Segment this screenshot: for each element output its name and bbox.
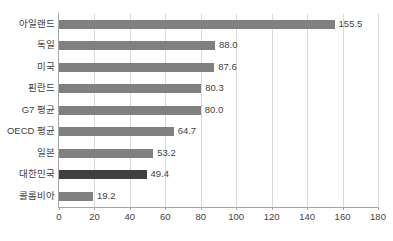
x-tick-mark xyxy=(130,207,131,210)
x-tick-label: 100 xyxy=(228,210,244,224)
category-label: 콜롬비아 xyxy=(0,190,55,202)
x-axis-labels: 020406080100120140160180 xyxy=(59,210,378,230)
bar xyxy=(59,84,201,93)
x-tick-label: 140 xyxy=(299,210,315,224)
bar-row: 80.3 xyxy=(59,78,378,99)
bar-value-label: 49.4 xyxy=(151,168,170,180)
x-tick-label: 20 xyxy=(89,210,100,224)
bar-value-label: 155.5 xyxy=(339,18,363,30)
x-tick-mark xyxy=(343,207,344,210)
x-tick-mark xyxy=(272,207,273,210)
bar-value-label: 80.0 xyxy=(205,104,224,116)
category-label: OECD 평균 xyxy=(0,125,55,137)
bar-row: 155.5 xyxy=(59,14,378,35)
bar-row: 53.2 xyxy=(59,143,378,164)
x-tick-mark xyxy=(59,207,60,210)
bar-value-label: 80.3 xyxy=(205,82,224,94)
x-tick-mark xyxy=(236,207,237,210)
x-tick-label: 120 xyxy=(264,210,280,224)
x-tick-label: 40 xyxy=(125,210,136,224)
bar xyxy=(59,106,201,115)
category-label: 독일 xyxy=(0,39,55,51)
x-tick-mark xyxy=(165,207,166,210)
bar-value-label: 88.0 xyxy=(219,39,238,51)
x-tick-label: 160 xyxy=(335,210,351,224)
bar-value-label: 87.6 xyxy=(218,61,237,73)
category-label: 핀란드 xyxy=(0,82,55,94)
bar-chart: 아일랜드독일미국핀란드G7 평균OECD 평균일본대한민국콜롬비아 155.58… xyxy=(0,0,393,241)
x-tick-mark xyxy=(201,207,202,210)
x-tick-label: 80 xyxy=(195,210,206,224)
plot-area: 155.588.087.680.380.064.753.249.419.2 xyxy=(59,14,378,207)
x-tick-mark xyxy=(378,207,379,210)
gridline xyxy=(378,14,379,207)
bar xyxy=(59,20,335,29)
x-tick-label: 0 xyxy=(56,210,61,224)
bar-value-label: 53.2 xyxy=(157,147,176,159)
category-label: G7 평균 xyxy=(0,104,55,116)
bar xyxy=(59,192,93,201)
category-label: 미국 xyxy=(0,61,55,73)
x-tick-label: 180 xyxy=(370,210,386,224)
category-label: 아일랜드 xyxy=(0,18,55,30)
x-tick-mark xyxy=(307,207,308,210)
bar-value-label: 19.2 xyxy=(97,190,116,202)
x-tick-label: 60 xyxy=(160,210,171,224)
bar-value-label: 64.7 xyxy=(178,125,197,137)
bar xyxy=(59,149,153,158)
category-label: 대한민국 xyxy=(0,168,55,180)
bar-row: 64.7 xyxy=(59,121,378,142)
category-label: 일본 xyxy=(0,147,55,159)
bar-row: 19.2 xyxy=(59,186,378,207)
bar-row: 80.0 xyxy=(59,100,378,121)
bar-row: 49.4 xyxy=(59,164,378,185)
x-axis-line xyxy=(58,207,379,208)
bar xyxy=(59,63,214,72)
bar-highlighted xyxy=(59,170,147,179)
x-tick-mark xyxy=(94,207,95,210)
bar-row: 87.6 xyxy=(59,57,378,78)
bar xyxy=(59,127,174,136)
bar-row: 88.0 xyxy=(59,35,378,56)
bar xyxy=(59,41,215,50)
y-axis-labels: 아일랜드독일미국핀란드G7 평균OECD 평균일본대한민국콜롬비아 xyxy=(0,14,55,207)
